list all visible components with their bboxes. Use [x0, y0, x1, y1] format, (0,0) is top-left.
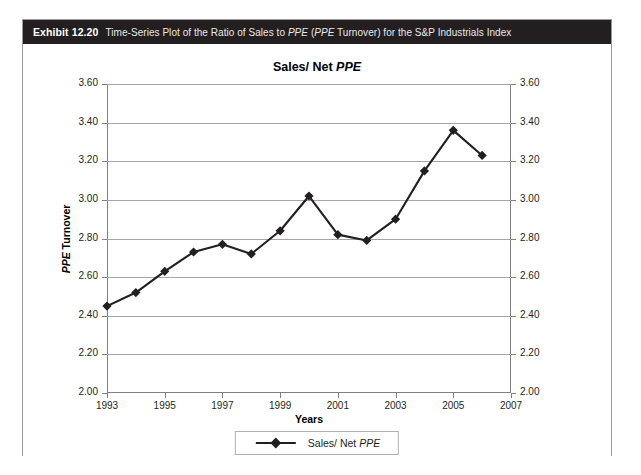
x-axis-tick — [396, 393, 397, 398]
x-axis-label: 1997 — [211, 400, 233, 411]
data-series-line — [107, 84, 511, 393]
y-axis-label-right: 3.60 — [520, 77, 539, 88]
y-axis-label-right: 3.00 — [520, 193, 539, 204]
x-axis-tick — [453, 393, 454, 398]
caption-ppe-2: PPE — [314, 27, 334, 38]
chart-area: Sales/ Net PPE PPE Turnover 3.603.603.40… — [23, 44, 611, 457]
exhibit-header-bar: Exhibit 12.20 Time-Series Plot of the Ra… — [23, 20, 611, 44]
legend-label-prefix: Sales/ Net — [308, 437, 359, 449]
caption-text-1: Time-Series Plot of the Ratio of Sales t… — [106, 27, 288, 38]
y-axis-label-left: 3.20 — [79, 154, 98, 165]
chart-legend: Sales/ Net PPE — [235, 431, 399, 455]
plot-area: 3.603.603.403.403.203.203.003.002.802.80… — [107, 84, 511, 393]
x-axis-tick — [280, 393, 281, 398]
y-axis-label-left: 3.00 — [79, 193, 98, 204]
y-axis-title-suffix: Turnover — [60, 204, 72, 252]
data-point-marker — [102, 301, 111, 310]
y-axis-tick-right — [511, 84, 516, 85]
x-axis-label: 2007 — [500, 400, 522, 411]
y-axis-tick-right — [511, 316, 516, 317]
chart-title: Sales/ Net PPE — [23, 60, 611, 74]
y-axis-tick-right — [511, 277, 516, 278]
y-axis-label-left: 2.40 — [79, 309, 98, 320]
y-axis-title: PPE Turnover — [59, 84, 73, 393]
x-axis-label: 1995 — [154, 400, 176, 411]
exhibit-figure: Exhibit 12.20 Time-Series Plot of the Ra… — [22, 19, 612, 456]
y-axis-label-left: 2.00 — [79, 386, 98, 397]
y-axis-tick-right — [511, 200, 516, 201]
legend-label: Sales/ Net PPE — [308, 437, 380, 449]
exhibit-caption: Time-Series Plot of the Ratio of Sales t… — [106, 27, 512, 38]
y-axis-label-left: 3.60 — [79, 77, 98, 88]
y-axis-label-right: 2.00 — [520, 386, 539, 397]
x-axis-label: 2005 — [442, 400, 464, 411]
x-axis-title: Years — [107, 413, 511, 425]
y-axis-title-italic: PPE — [60, 252, 72, 273]
legend-marker-icon — [254, 437, 298, 449]
chart-title-italic: PPE — [336, 60, 361, 74]
y-axis-label-right: 2.80 — [520, 232, 539, 243]
x-axis-label: 1993 — [96, 400, 118, 411]
y-axis-label-left: 2.20 — [79, 347, 98, 358]
caption-text-3: Turnover) for the S&P Industrials Index — [334, 27, 511, 38]
x-axis-label: 2003 — [384, 400, 406, 411]
series-line — [107, 130, 482, 306]
chart-title-prefix: Sales/ Net — [273, 60, 336, 74]
y-axis-label-left: 2.80 — [79, 232, 98, 243]
caption-ppe-1: PPE — [288, 27, 308, 38]
x-axis-tick — [165, 393, 166, 398]
data-point-marker — [218, 240, 227, 249]
x-axis-label: 2001 — [327, 400, 349, 411]
y-axis-label-right: 3.40 — [520, 116, 539, 127]
x-axis-tick — [107, 393, 108, 398]
y-axis-label-right: 2.60 — [520, 270, 539, 281]
x-axis-label: 1999 — [269, 400, 291, 411]
y-axis-label-left: 2.60 — [79, 270, 98, 281]
exhibit-number: Exhibit 12.20 — [33, 26, 99, 38]
y-axis-tick-right — [511, 123, 516, 124]
x-axis-tick — [338, 393, 339, 398]
y-axis-label-right: 3.20 — [520, 154, 539, 165]
y-axis-label-right: 2.40 — [520, 309, 539, 320]
y-axis-tick-right — [511, 239, 516, 240]
y-axis-tick-right — [511, 161, 516, 162]
y-axis-label-right: 2.20 — [520, 347, 539, 358]
y-axis-label-left: 3.40 — [79, 116, 98, 127]
x-axis-tick — [511, 393, 512, 398]
x-axis-tick — [222, 393, 223, 398]
y-axis-tick-right — [511, 354, 516, 355]
legend-label-italic: PPE — [359, 437, 380, 449]
